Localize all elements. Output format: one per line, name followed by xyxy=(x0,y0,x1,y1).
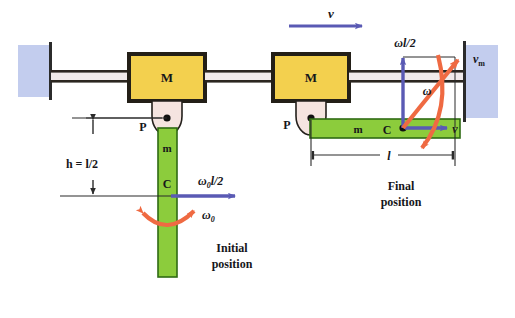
rod-mass-label-initial: m xyxy=(162,142,171,154)
height-label-text: h = l/2 xyxy=(66,157,98,171)
rod-bar-initial: m C xyxy=(158,128,177,277)
final-position-caption: Final position xyxy=(381,179,422,209)
tangential-velocity-label-initial: ω0l/2 xyxy=(198,174,223,190)
block-M-initial-label: M xyxy=(161,70,173,85)
pivot-label-final: P xyxy=(283,118,290,132)
center-of-mass-label-initial: C xyxy=(163,177,172,191)
length-label-final: l xyxy=(387,149,391,163)
tangential-velocity-label-final: ωl/2 xyxy=(394,36,415,50)
angular-velocity-label-initial: ω0 xyxy=(202,208,215,224)
initial-position-caption: Initial position xyxy=(212,241,253,271)
height-label-initial: h = l/2 xyxy=(66,157,98,171)
rod-mass-label-final: m xyxy=(353,123,362,135)
final-caption-line1: Final xyxy=(388,179,415,193)
angular-velocity-initial: ω0 xyxy=(143,208,215,225)
block-velocity-label-final: v xyxy=(328,6,334,21)
initial-caption-line1: Initial xyxy=(216,241,248,255)
pivot-label-initial: P xyxy=(139,120,146,134)
block-M-final-label: M xyxy=(305,70,317,85)
diagram-canvas: M P m C h = l/2 xyxy=(0,0,515,318)
final-caption-line2: position xyxy=(381,195,422,209)
block-M-final: M xyxy=(273,54,349,101)
initial-caption-line2: position xyxy=(212,257,253,271)
center-of-mass-label-final: C xyxy=(383,123,392,137)
right-wall xyxy=(463,41,498,122)
rod-between-blocks xyxy=(205,70,273,83)
angular-velocity-label-final: ω xyxy=(423,84,432,98)
block-velocity-final: v xyxy=(289,6,362,26)
tangential-velocity-initial: ω0l/2 xyxy=(171,174,235,196)
rod-wall-to-block xyxy=(51,70,131,83)
left-wall xyxy=(18,42,52,100)
block-M-initial: M xyxy=(129,54,205,101)
physics-diagram: M P m C h = l/2 xyxy=(0,0,515,318)
